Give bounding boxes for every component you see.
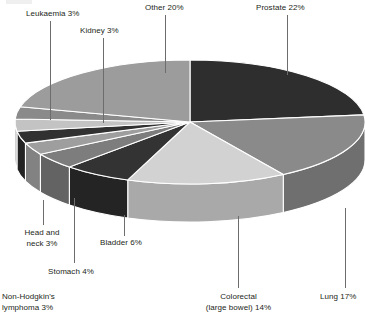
pie-chart-figure: Leukaemia 3% Kidney 3% Other 20% Prostat…	[0, 0, 365, 321]
leader-line-lung	[345, 208, 346, 288]
leader-line-headneck	[43, 200, 44, 225]
leader-line-kidney	[103, 38, 104, 123]
slice-label-leukaemia: Leukaemia 3%	[26, 9, 80, 20]
slice-label-lung: Lung 17%	[320, 292, 356, 303]
pie-slice-Prostate	[190, 60, 364, 122]
slice-label-stomach: Stomach 4%	[48, 267, 94, 278]
leader-line-prostate	[287, 15, 288, 75]
slice-label-kidney: Kidney 3%	[80, 26, 119, 37]
leader-line-leukaemia	[50, 21, 51, 120]
slice-label-non-hodgkins-lymphoma: Non-Hodgkin's lymphoma 3%	[2, 292, 55, 313]
slice-label-other: Other 20%	[145, 3, 184, 14]
pie-top-faces	[15, 60, 365, 184]
leader-line-colorectal	[238, 216, 239, 288]
slice-label-colorectal: Colorectal (large bowel) 14%	[185, 292, 292, 313]
leader-line-bladder	[124, 215, 125, 236]
leader-line-other	[165, 15, 166, 73]
slice-label-prostate: Prostate 22%	[256, 3, 305, 14]
slice-label-head-and-neck: Head and neck 3%	[6, 228, 78, 249]
slice-label-bladder: Bladder 6%	[100, 238, 142, 249]
